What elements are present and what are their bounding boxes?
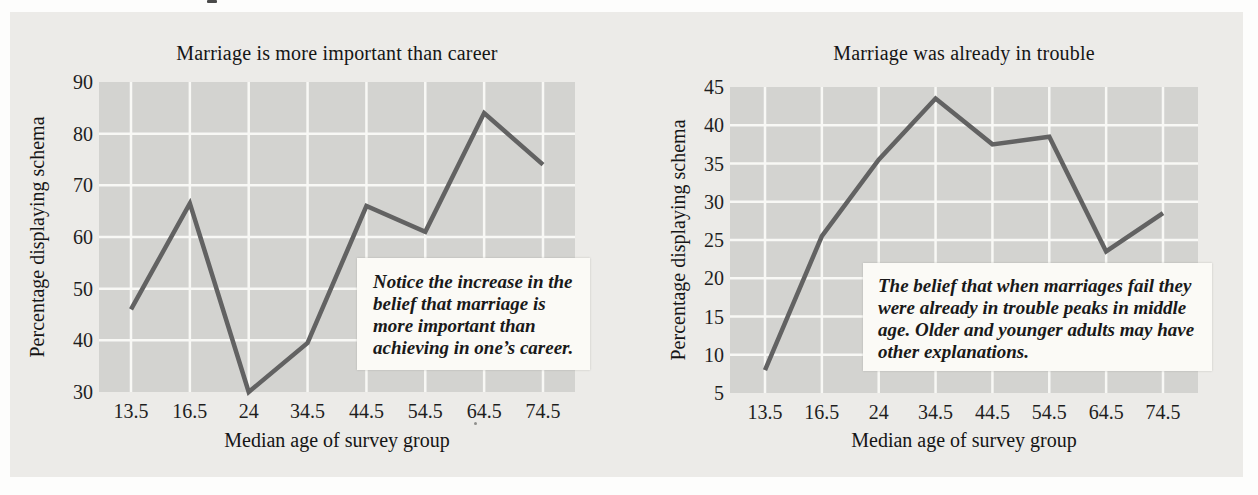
y-tick-label: 60 [43, 225, 93, 249]
y-tick-label: 35 [674, 152, 724, 176]
x-tick-label: 64.5 [1074, 400, 1138, 424]
y-tick-label: 30 [43, 380, 93, 404]
x-tick-label: 13.5 [733, 400, 797, 424]
y-tick-label: 45 [674, 75, 724, 99]
annotation-text: Notice the increase in the belief that m… [357, 258, 590, 359]
annotation-text: The belief that when marriages fail they… [863, 263, 1212, 363]
y-tick-label: 25 [674, 228, 724, 252]
x-tick-label: 13.5 [99, 399, 163, 423]
x-axis-label: Median age of survey group [730, 428, 1198, 452]
x-tick-label: 54.5 [1017, 400, 1081, 424]
x-tick-label: 74.5 [1131, 400, 1195, 424]
chart-title: Marriage was already in trouble [730, 42, 1198, 65]
x-tick-label: 74.5 [511, 399, 575, 423]
y-tick-label: 40 [674, 113, 724, 137]
y-tick-label: 50 [43, 277, 93, 301]
y-tick-label: 10 [674, 343, 724, 367]
x-tick-label: 34.5 [904, 400, 968, 424]
x-tick-label: 16.5 [790, 400, 854, 424]
x-tick-label: 64.5 [452, 399, 516, 423]
chart-title: Marriage is more important than career [99, 42, 575, 65]
x-tick-label: 16.5 [158, 399, 222, 423]
y-tick-label: 90 [43, 70, 93, 94]
annotation-box: Notice the increase in the belief that m… [357, 258, 590, 370]
y-tick-label: 70 [43, 173, 93, 197]
x-tick-label: 44.5 [334, 399, 398, 423]
x-tick-label: 24 [217, 399, 281, 423]
y-tick-label: 40 [43, 328, 93, 352]
y-tick-label: 15 [674, 305, 724, 329]
y-tick-label: 5 [674, 381, 724, 405]
x-tick-label: 44.5 [960, 400, 1024, 424]
scan-artifact-dash [207, 0, 217, 3]
y-tick-label: 20 [674, 266, 724, 290]
x-tick-label: 54.5 [393, 399, 457, 423]
scanned-figure: Marriage is more important than career P… [0, 0, 1258, 495]
x-axis-label: Median age of survey group [99, 428, 575, 452]
y-tick-label: 30 [674, 190, 724, 214]
annotation-box: The belief that when marriages fail they… [863, 263, 1212, 371]
y-tick-label: 80 [43, 122, 93, 146]
x-tick-label: 34.5 [276, 399, 340, 423]
scan-artifact-speck [474, 422, 477, 425]
x-tick-label: 24 [847, 400, 911, 424]
